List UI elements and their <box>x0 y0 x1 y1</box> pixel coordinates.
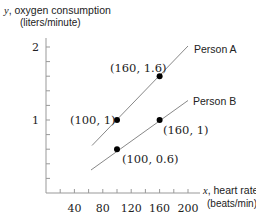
svg-text:120: 120 <box>121 202 142 215</box>
point-labels: (160, 1.6) (100, 1) (160, 1) (100, 0.6) <box>70 61 209 166</box>
chart-container: y, oxygen consumption (liters/minute) x,… <box>0 0 256 222</box>
legend-person-b: Person B <box>193 95 236 107</box>
svg-text:2: 2 <box>32 41 39 54</box>
point-b-160-1 <box>157 117 163 123</box>
label-a1: (100, 1) <box>70 113 116 127</box>
legend: Person A Person B <box>193 43 237 107</box>
label-a2: (160, 1.6) <box>110 61 167 75</box>
label-b1: (100, 0.6) <box>122 152 179 166</box>
svg-text:160: 160 <box>149 202 170 215</box>
y-tick-labels: 1 2 <box>32 41 39 127</box>
point-b-100-0.6 <box>114 146 120 152</box>
svg-text:200: 200 <box>178 202 199 215</box>
x-ticks <box>60 189 188 193</box>
legend-person-a: Person A <box>194 43 237 55</box>
label-b2: (160, 1) <box>163 123 209 137</box>
y-ticks <box>46 47 50 178</box>
plot-area: 40 80 120 160 200 1 2 (160, 1.6) (100, 1… <box>0 0 256 222</box>
svg-text:40: 40 <box>67 202 81 215</box>
svg-text:1: 1 <box>32 114 39 127</box>
x-tick-labels: 40 80 120 160 200 <box>67 202 198 215</box>
svg-text:80: 80 <box>96 202 110 215</box>
